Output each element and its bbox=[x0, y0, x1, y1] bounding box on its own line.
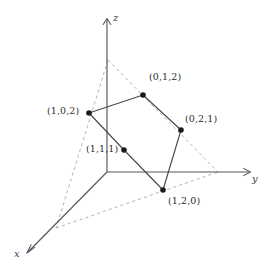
point-label-120: (1,2,0) bbox=[168, 196, 200, 206]
edge-102-to-012 bbox=[89, 95, 143, 113]
vertex-dot-021 bbox=[178, 127, 184, 133]
coordinate-axes bbox=[27, 19, 251, 254]
x-axis-label: x bbox=[14, 249, 20, 259]
z-axis-label: z bbox=[113, 13, 118, 23]
point-label-021: (0,2,1) bbox=[185, 114, 217, 124]
vertex-dot-012 bbox=[140, 92, 146, 98]
figure-root: z y x (0,1,2) (1,0,2) (0,2,1) (1,1,1) (1… bbox=[0, 0, 273, 276]
point-label-012: (0,1,2) bbox=[149, 72, 181, 82]
vertex-dot-120 bbox=[160, 187, 166, 193]
edge-012-to-021 bbox=[143, 95, 181, 130]
axes-diagram bbox=[0, 0, 273, 276]
y-axis-label: y bbox=[252, 174, 258, 184]
x-axis-line bbox=[28, 172, 107, 252]
edge-120-to-111 bbox=[124, 150, 163, 190]
point-label-111: (1,1,1) bbox=[86, 144, 118, 154]
edge-021-to-120 bbox=[163, 130, 181, 190]
vertex-dot-102 bbox=[86, 110, 92, 116]
vertex-dot-111 bbox=[121, 147, 127, 153]
point-label-102: (1,0,2) bbox=[47, 106, 79, 116]
